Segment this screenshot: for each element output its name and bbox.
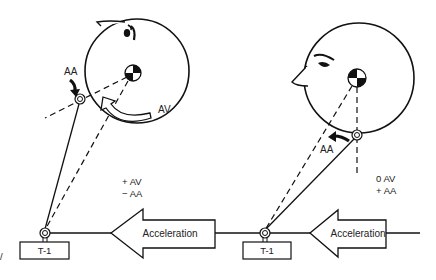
left-panel: AA AV + AV − AA T-1 Acceleration / [0, 19, 215, 262]
left-dashed-line-2 [45, 81, 128, 230]
left-t1-label: T-1 [38, 245, 52, 256]
left-sign-aa: − AA [122, 188, 143, 199]
left-aa-label: AA [64, 66, 78, 77]
left-acceleration-label: Acceleration [142, 228, 197, 239]
edge-mark: / [0, 251, 3, 262]
left-neck-line [45, 104, 79, 229]
right-t1-label: T-1 [260, 245, 274, 256]
right-panel: AA 0 AV + AA T-1 Acceleration [243, 23, 414, 259]
left-av-label: AV [158, 104, 171, 115]
left-t1-joint-icon [40, 228, 50, 242]
left-center-of-gravity-icon [125, 65, 141, 81]
right-sign-av: 0 AV [376, 173, 396, 184]
right-occipital-joint-icon [352, 130, 362, 140]
head-neck-acceleration-diagram: AA AV + AV − AA T-1 Acceleration / [0, 0, 436, 280]
right-neck-line [266, 139, 354, 229]
right-aa-label: AA [320, 144, 334, 155]
right-dashed-line-1 [265, 86, 352, 230]
right-center-of-gravity-icon [348, 69, 366, 87]
right-nose-icon [292, 66, 308, 86]
right-t1-joint-icon [260, 228, 270, 242]
left-sign-av: + AV [122, 176, 142, 187]
right-acceleration-label: Acceleration [330, 228, 385, 239]
left-eye-icon [124, 29, 130, 37]
right-sign-aa: + AA [376, 185, 397, 196]
right-aa-arrow-icon [334, 136, 349, 141]
